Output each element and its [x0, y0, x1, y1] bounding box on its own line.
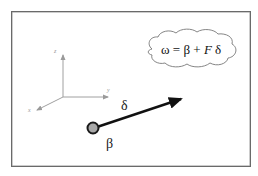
- eq-equals: =: [170, 42, 184, 57]
- delta-label: δ: [121, 98, 128, 113]
- delta-vector-arrow: [97, 99, 181, 127]
- equation-cloud: ω = β + F δ: [148, 29, 236, 67]
- y-axis-label: y: [106, 87, 110, 93]
- eq-delta: δ: [212, 42, 221, 57]
- z-axis-label: z: [53, 48, 57, 54]
- diagram-canvas: z y x ω = β + F δ δ β: [0, 0, 258, 176]
- x-axis: [37, 97, 63, 110]
- x-axis-label: x: [27, 107, 31, 113]
- beta-point: [88, 123, 99, 134]
- coordinate-axes: z y x: [27, 48, 110, 113]
- eq-plus: +: [190, 42, 204, 57]
- equation: ω = β + F δ: [161, 42, 221, 57]
- beta-label: β: [106, 136, 113, 151]
